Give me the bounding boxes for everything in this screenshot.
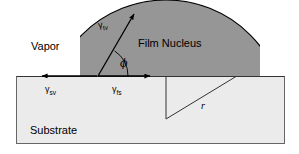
film-nucleus-label: Film Nucleus bbox=[138, 38, 202, 49]
gamma-sv-subscript: sv bbox=[50, 89, 57, 96]
gamma-fs-label: γfs bbox=[112, 85, 122, 96]
figure-canvas: Vapor Film Nucleus Substrate γtv γsv γfs… bbox=[0, 0, 299, 154]
gamma-fs-subscript: fs bbox=[117, 89, 122, 96]
substrate-label: Substrate bbox=[30, 125, 77, 136]
gamma-tv-label: γtv bbox=[97, 20, 108, 33]
gamma-sv-label: γsv bbox=[45, 85, 56, 96]
contact-angle-label: ϕ bbox=[120, 58, 128, 69]
vapor-label: Vapor bbox=[31, 41, 60, 52]
gamma-tv-subscript: tv bbox=[102, 24, 108, 32]
radius-label: r bbox=[201, 101, 205, 111]
